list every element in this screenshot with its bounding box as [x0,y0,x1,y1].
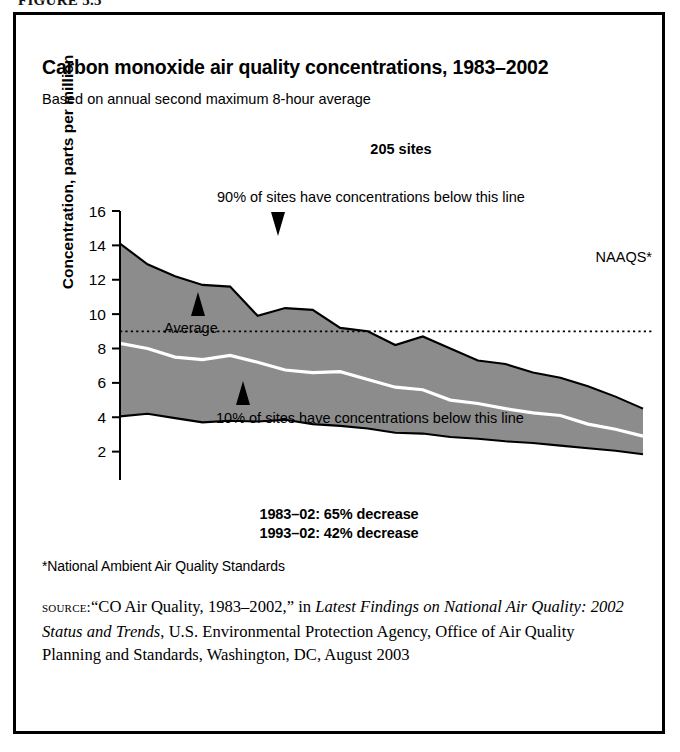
sites-count-label: 205 sites [370,141,431,157]
y-axis-tick-label: 12 [89,271,106,288]
decrease-notes: 1983–02: 65% decrease 1993–02: 42% decre… [16,505,662,543]
figure-content: Carbon monoxide air quality concentratio… [16,15,662,731]
decrease-note-1: 1983–02: 65% decrease [16,505,662,524]
average-annotation: Average [164,320,218,336]
footnote: *National Ambient Air Quality Standards [42,558,285,574]
source-citation: source:“CO Air Quality, 1983–2002,” in L… [42,595,634,667]
lower-band-annotation: 10% of sites have concentrations below t… [216,410,524,426]
y-axis-tick-labels: 0246810121416 [89,203,107,481]
co-concentration-area-chart: 0246810121416 83848586878889909192939495… [16,140,662,480]
y-axis-ticks [112,211,120,480]
y-axis-tick-label: 4 [97,409,106,426]
source-part1: “CO Air Quality, 1983–2002,” in [91,597,315,616]
chart-subtitle: Based on annual second maximum 8-hour av… [42,91,371,107]
y-axis-tick-label: 2 [97,443,106,460]
upper-band-arrow [271,212,285,236]
upper-band-annotation: 90% of sites have concentrations below t… [217,189,525,205]
y-axis-tick-label: 0 [97,478,106,481]
chart-plot-area: 0246810121416 83848586878889909192939495… [16,140,662,480]
figure-frame: Carbon monoxide air quality concentratio… [13,12,665,734]
page-title: Carbon monoxide air quality concentratio… [42,56,548,79]
y-axis-tick-label: 6 [97,374,106,391]
y-axis-tick-label: 14 [89,237,107,254]
y-axis-tick-label: 8 [97,340,106,357]
figure-number: FIGURE 5.5 [18,0,102,6]
decrease-note-2: 1993–02: 42% decrease [16,524,662,543]
y-axis-tick-label: 10 [89,306,107,323]
source-label: source: [42,599,91,615]
y-axis-tick-label: 16 [89,203,106,220]
naaqs-label: NAAQS* [596,249,653,265]
